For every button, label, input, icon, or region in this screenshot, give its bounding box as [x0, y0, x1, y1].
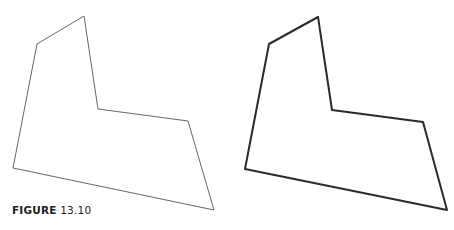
caption-label: FIGURE [12, 204, 57, 216]
caption-number: 13.10 [60, 204, 91, 216]
thin-outline-polygon [13, 16, 214, 210]
thick-outline-polygon [245, 17, 447, 210]
figure-canvas [0, 0, 454, 230]
figure-caption: FIGURE 13.10 [12, 204, 91, 216]
